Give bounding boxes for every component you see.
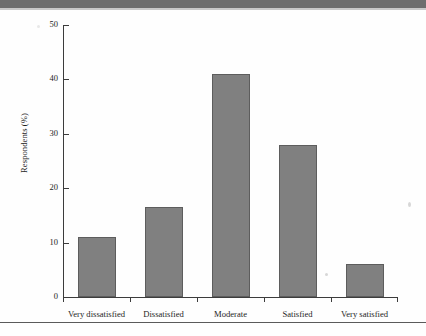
bar	[78, 237, 116, 297]
y-tick: 50	[63, 25, 69, 26]
plot-area: 01020304050 Very dissatisfiedDissatisfie…	[63, 25, 398, 297]
x-axis-line	[63, 297, 398, 298]
y-tick: 10	[63, 243, 69, 244]
category-label: Dissatisfied	[143, 309, 184, 319]
bar	[212, 74, 250, 297]
bar	[279, 145, 317, 297]
category-label: Moderate	[214, 309, 247, 319]
bar-chart-figure: Respondents (%) 01020304050 Very dissati…	[0, 10, 426, 320]
y-tick-label: 30	[50, 128, 59, 138]
scan-speckle	[37, 25, 40, 28]
x-tick-mark	[197, 297, 198, 302]
bar	[145, 207, 183, 297]
scan-top-band	[0, 0, 426, 8]
y-tick-mark	[63, 79, 69, 80]
y-axis-label: Respondents (%)	[19, 93, 29, 193]
y-tick-mark	[63, 134, 69, 135]
y-tick-label: 50	[50, 19, 59, 29]
category-label: Satisfied	[282, 309, 312, 319]
scanned-page: Respondents (%) 01020304050 Very dissati…	[0, 0, 426, 336]
y-tick-mark	[63, 243, 69, 244]
x-tick-mark	[264, 297, 265, 302]
y-axis-line	[63, 25, 64, 297]
x-tick-mark	[130, 297, 131, 302]
x-tick-mark	[397, 297, 398, 302]
y-tick: 40	[63, 79, 69, 80]
y-tick-label: 20	[50, 182, 59, 192]
scan-speckle	[325, 273, 328, 276]
y-tick: 20	[63, 188, 69, 189]
y-tick-mark	[63, 188, 69, 189]
x-tick-mark	[331, 297, 332, 302]
scan-speckle	[408, 202, 411, 207]
y-tick-label: 40	[50, 73, 59, 83]
y-tick: 30	[63, 134, 69, 135]
y-tick-label: 10	[50, 237, 59, 247]
category-label: Very dissatisfied	[68, 309, 125, 319]
bar	[346, 264, 384, 297]
y-tick-label: 0	[54, 291, 58, 301]
category-label: Very satisfied	[341, 309, 388, 319]
y-tick-mark	[63, 25, 69, 26]
page-bottom-rule	[0, 322, 426, 323]
x-tick-mark	[63, 297, 64, 302]
